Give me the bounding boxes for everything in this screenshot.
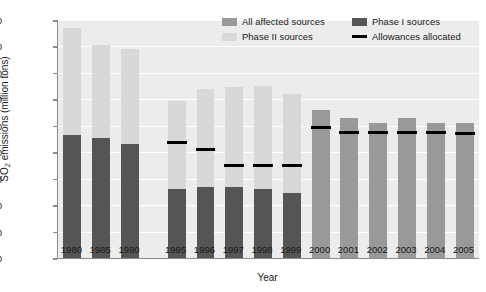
bar-2000 <box>312 20 330 258</box>
y-tick-mark <box>53 152 57 154</box>
legend-entry: All affected sources <box>222 16 336 27</box>
bar-segment-all-affected <box>398 118 416 258</box>
bar-2002 <box>369 20 387 258</box>
bar-1980 <box>63 20 81 258</box>
y-tick-mark <box>53 20 57 22</box>
bar-1985 <box>92 20 110 258</box>
y-tick-mark <box>53 46 57 48</box>
legend-entry: Allowances allocated <box>352 31 472 42</box>
allowance-line <box>426 131 446 134</box>
bar-segment-all-affected <box>340 118 358 258</box>
y-tick-mark <box>53 258 57 260</box>
bar-1996 <box>197 20 215 258</box>
x-tick-label: 1996 <box>194 244 215 255</box>
bar-1997 <box>225 20 243 258</box>
bar-segment-all-affected <box>427 123 445 258</box>
legend-label: Allowances allocated <box>372 31 461 42</box>
bar-2004 <box>427 20 445 258</box>
legend: All affected sourcesPhase I sourcesPhase… <box>222 16 472 42</box>
bar-segment-phase-i <box>63 135 81 258</box>
allowance-line <box>368 131 388 134</box>
bar-segment-all-affected <box>369 123 387 258</box>
bar-segment-phase-ii <box>63 28 81 135</box>
x-tick-label: 2003 <box>395 244 416 255</box>
allowance-line <box>167 141 187 144</box>
y-axis-title: SO2 emissions (million tons) <box>0 0 12 238</box>
legend-label: All affected sources <box>242 16 325 27</box>
x-tick-label: 2004 <box>424 244 445 255</box>
plot-area <box>57 20 479 259</box>
bar-segment-phase-ii <box>197 89 215 187</box>
y-tick-mark <box>53 126 57 128</box>
y-tick-mark <box>53 232 57 234</box>
so2-emissions-bar-chart: 0.02.04.06.08.010.012.014.016.018.0 SO2 … <box>0 0 486 292</box>
legend-label: Phase II sources <box>242 31 313 42</box>
bar-segment-phase-ii <box>254 86 272 189</box>
allowance-line <box>253 164 273 167</box>
allowance-line <box>397 131 417 134</box>
legend-entry: Phase I sources <box>352 16 472 27</box>
bar-1998 <box>254 20 272 258</box>
y-tick-mark <box>53 73 57 75</box>
legend-color-swatch <box>222 18 237 26</box>
bar-segment-all-affected <box>312 110 330 258</box>
bar-1995 <box>168 20 186 258</box>
bar-segment-phase-ii <box>121 49 139 144</box>
x-tick-label: 2002 <box>367 244 388 255</box>
allowance-line <box>196 148 216 151</box>
bar-segment-phase-i <box>92 138 110 258</box>
bar-segment-all-affected <box>456 123 474 258</box>
x-axis-title: Year <box>57 272 478 283</box>
x-tick-label: 2000 <box>309 244 330 255</box>
allowance-line <box>282 164 302 167</box>
bar-2001 <box>340 20 358 258</box>
y-tick-mark <box>53 99 57 101</box>
bar-segment-phase-ii <box>168 101 186 190</box>
bar-segment-phase-ii <box>92 45 110 138</box>
y-tick-label: 0.0 <box>0 253 2 264</box>
allowance-line <box>224 164 244 167</box>
legend-entry: Phase II sources <box>222 31 336 42</box>
allowance-line <box>339 131 359 134</box>
bar-segment-phase-ii <box>283 94 301 193</box>
legend-label: Phase I sources <box>372 16 440 27</box>
allowance-line <box>311 126 331 129</box>
y-tick-mark <box>53 205 57 207</box>
x-tick-label: 1990 <box>118 244 139 255</box>
x-tick-label: 1997 <box>223 244 244 255</box>
legend-color-swatch <box>222 33 237 41</box>
x-tick-label: 1999 <box>280 244 301 255</box>
bar-segment-phase-i <box>121 144 139 258</box>
x-tick-label: 2001 <box>338 244 359 255</box>
legend-color-swatch <box>352 18 367 26</box>
y-axis-title-subscript: 2 <box>3 163 12 167</box>
legend-line-swatch <box>352 35 367 38</box>
x-tick-label: 1985 <box>90 244 111 255</box>
allowance-line <box>455 132 475 135</box>
bar-2003 <box>398 20 416 258</box>
x-tick-label: 2005 <box>453 244 474 255</box>
bar-segment-phase-ii <box>225 87 243 186</box>
x-tick-label: 1995 <box>165 244 186 255</box>
y-tick-mark <box>53 179 57 181</box>
x-tick-label: 1998 <box>251 244 272 255</box>
bar-1999 <box>283 20 301 258</box>
x-tick-label: 1980 <box>61 244 82 255</box>
bar-1990 <box>121 20 139 258</box>
bar-2005 <box>456 20 474 258</box>
